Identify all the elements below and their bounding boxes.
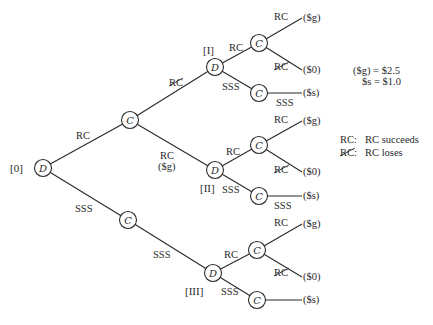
chance-node-IIIa: C — [249, 242, 266, 259]
node-letter: D — [208, 268, 217, 279]
legend-key-rc: RC: — [340, 134, 357, 145]
node-letter: C — [255, 88, 263, 99]
tag-II: [II] — [200, 182, 215, 194]
label-sss-c2: SSS — [153, 249, 171, 260]
nodes: D C C D D D C C — [35, 35, 268, 309]
chance-node-Ib: C — [251, 85, 268, 102]
label-rc-cIa: RC — [274, 11, 288, 22]
node-letter: C — [255, 191, 263, 202]
decision-tree-diagram: D C C D D D C C — [0, 0, 433, 325]
chance-node-IIa: C — [251, 137, 268, 154]
legend-desc-succeeds: RC succeeds — [365, 134, 419, 145]
legend-key-rc-negated: RC: — [340, 147, 357, 158]
label-rc-root: RC — [76, 130, 90, 141]
label-sss-dI: SSS — [222, 81, 240, 92]
payoff-0-I: ($0) — [303, 64, 321, 76]
node-letter: C — [253, 245, 261, 256]
payoff-values: ($g) = $2.5 $s = $1.0 — [353, 65, 401, 87]
label-rc-negated-cIIa: RC — [274, 164, 289, 175]
label-sss-dII: SSS — [222, 184, 240, 195]
label-rc-cIIa: RC — [274, 114, 288, 125]
edge-d0-c1 — [43, 120, 130, 168]
node-letter: D — [210, 165, 219, 176]
chance-node-c1: C — [122, 112, 139, 129]
tag-III: [III] — [185, 285, 203, 297]
label-rc-dI: RC — [229, 42, 243, 53]
label-rc-negated-cIIIa: RC — [274, 267, 289, 278]
node-letter: C — [255, 38, 263, 49]
label-rc-negated-cIa: RC — [274, 61, 289, 72]
payoff-0-III: ($0) — [303, 271, 321, 283]
tag-I: [I] — [203, 44, 214, 56]
payoff-0-II: ($0) — [303, 166, 321, 178]
label-sss-root: SSS — [75, 203, 93, 214]
node-letter: D — [210, 62, 219, 73]
decision-node-0: D — [35, 160, 52, 177]
node-letter: C — [126, 115, 134, 126]
payoff-s-II: ($s) — [303, 190, 320, 202]
label-sss-cIIb: SSS — [274, 200, 292, 211]
legend-desc-loses: RC loses — [365, 147, 403, 158]
node-letter: D — [38, 163, 47, 174]
label-rc-cIIIa: RC — [274, 217, 288, 228]
decision-node-III: D — [205, 265, 222, 282]
label-rc-dII: RC — [226, 146, 240, 157]
chance-node-IIb: C — [251, 188, 268, 205]
payoffs: ($g) ($0) ($s) ($g) ($0) ($s) ($g) ($0) … — [303, 12, 321, 306]
label-sss-dIII: SSS — [221, 286, 239, 297]
edge-c2-dIII — [128, 220, 213, 273]
payoff-s-I: ($s) — [303, 87, 320, 99]
chance-node-c2: C — [120, 212, 137, 229]
payoff-g-I: ($g) — [303, 12, 321, 24]
payoff-g-II: ($g) — [303, 115, 321, 127]
chance-node-IIIb: C — [249, 292, 266, 309]
tag-0: [0] — [10, 162, 23, 174]
value-s: $s = $1.0 — [362, 76, 401, 87]
label-rc-c1-dII: RC — [160, 150, 174, 161]
label-rc-negated-c1: RC — [169, 77, 183, 88]
payoff-s-III: ($s) — [303, 294, 320, 306]
legend: RC: RC succeeds RC: RC loses — [340, 134, 419, 158]
edge-c1-dI — [130, 67, 215, 120]
label-rc-dIII: RC — [224, 249, 238, 260]
label-g-c1-dII: ($g) — [158, 161, 176, 173]
label-sss-cIb: SSS — [276, 97, 294, 108]
chance-node-Ia: C — [251, 35, 268, 52]
decision-node-II: D — [207, 162, 224, 179]
payoff-g-III: ($g) — [303, 218, 321, 230]
decision-node-I: D — [207, 59, 224, 76]
node-letter: C — [253, 295, 261, 306]
node-letter: C — [255, 140, 263, 151]
node-letter: C — [124, 215, 132, 226]
